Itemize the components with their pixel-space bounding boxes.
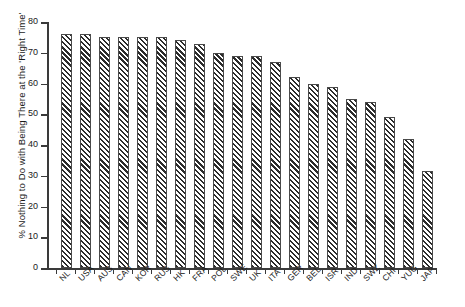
chart-figure: % Nothing to Do with Being There at the …	[0, 0, 465, 307]
y-axis-tick-label: 30	[28, 170, 38, 181]
bar	[270, 62, 281, 268]
y-axis-tick: 40	[41, 145, 47, 147]
y-axis-tick: 70	[41, 53, 47, 55]
y-axis-tick: 0	[41, 268, 47, 270]
bar	[61, 34, 72, 268]
y-axis-tick: 30	[41, 176, 47, 178]
bar	[384, 117, 395, 268]
y-axis-title: % Nothing to Do with Being There at the …	[16, 1, 27, 251]
bar	[327, 87, 338, 268]
y-axis-tick-label: 70	[28, 47, 38, 58]
y-axis-tick-label: 40	[28, 139, 38, 150]
y-axis-tick-label: 10	[28, 231, 38, 242]
x-axis-label: NL	[57, 268, 72, 283]
bar	[232, 56, 243, 268]
y-axis-tick-label: 50	[28, 108, 38, 119]
plot-area	[48, 22, 455, 268]
x-axis-label: UK	[247, 267, 263, 283]
bar	[346, 99, 357, 268]
y-axis-tick: 80	[41, 22, 47, 24]
bar	[289, 77, 300, 268]
y-axis-tick-label: 0	[33, 262, 38, 273]
x-axis-tick	[189, 269, 191, 274]
bar	[365, 102, 376, 268]
x-axis-tick	[341, 269, 343, 274]
bar	[80, 34, 91, 268]
y-axis-tick-label: 80	[28, 16, 38, 27]
x-axis-tick	[284, 269, 286, 274]
y-axis-tick: 20	[41, 207, 47, 209]
x-axis-label: HK	[171, 267, 187, 283]
y-axis-tick: 10	[41, 237, 47, 239]
bar	[99, 37, 110, 268]
bar	[175, 40, 186, 268]
x-axis-tick	[56, 269, 58, 274]
bar	[137, 37, 148, 268]
y-axis-tick-label: 20	[28, 201, 38, 212]
x-axis-tick	[265, 269, 267, 274]
bar	[308, 84, 319, 269]
bar	[194, 44, 205, 268]
bar	[213, 53, 224, 268]
bar	[422, 171, 433, 268]
bar	[251, 56, 262, 268]
bar	[403, 139, 414, 268]
x-axis-tick	[75, 269, 77, 274]
y-axis-tick: 60	[41, 84, 47, 86]
y-axis-tick-label: 60	[28, 78, 38, 89]
bar	[118, 37, 129, 268]
y-axis-tick: 50	[41, 114, 47, 116]
bar	[156, 37, 167, 268]
